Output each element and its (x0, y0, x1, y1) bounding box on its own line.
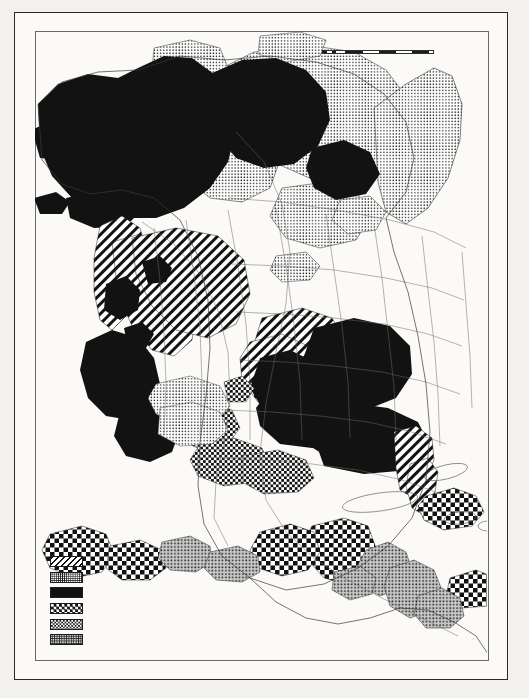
legend-row (50, 554, 350, 570)
legend-row (50, 601, 350, 617)
map-page (0, 0, 529, 698)
legend-swatch-tunnel-entrance (50, 572, 83, 583)
map-legend (50, 554, 350, 648)
legend-row (50, 585, 350, 601)
region-southwest-tunnel-entrance (148, 376, 230, 446)
scale-bar-graphic (322, 50, 434, 54)
scale-tick-labels (322, 43, 434, 50)
legend-swatch-sitting-lounging (50, 634, 83, 645)
scale-bar (322, 42, 434, 54)
legend-row (50, 616, 350, 632)
legend-row (50, 570, 350, 586)
legend-swatch-hammock-modern (50, 619, 83, 630)
legend-swatch-semisubterranean-house (50, 556, 83, 567)
legend-swatch-hammock-aboriginal (50, 603, 83, 614)
legend-swatch-both-of-the-above (50, 587, 83, 598)
legend-row (50, 632, 350, 648)
